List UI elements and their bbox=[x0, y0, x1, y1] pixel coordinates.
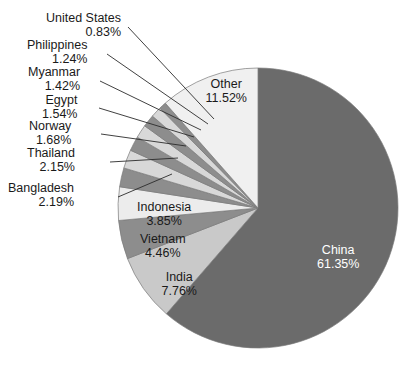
slice-label-indonesia: Indonesia3.85% bbox=[137, 200, 191, 228]
slice-label-thailand: Thailand2.15% bbox=[27, 146, 75, 174]
slice-label-myanmar: Myanmar1.42% bbox=[28, 65, 80, 93]
slice-label-china: China61.35% bbox=[317, 243, 359, 271]
slice-label-value-indonesia: 3.85% bbox=[137, 214, 191, 228]
slice-label-value-vietnam: 4.46% bbox=[140, 246, 186, 260]
slice-label-value-philippines: 1.24% bbox=[27, 52, 87, 66]
slice-label-name-thailand: Thailand bbox=[27, 146, 75, 160]
slice-label-india: India7.76% bbox=[162, 270, 197, 298]
slice-label-value-egypt: 1.54% bbox=[42, 107, 77, 121]
slice-label-value-myanmar: 1.42% bbox=[28, 79, 80, 93]
slice-label-name-indonesia: Indonesia bbox=[137, 200, 191, 214]
slice-label-value-india: 7.76% bbox=[162, 284, 197, 298]
pie-chart-figure: China61.35%India7.76%Vietnam4.46%Indones… bbox=[0, 0, 419, 367]
slice-label-name-india: India bbox=[162, 270, 197, 284]
slice-label-value-thailand: 2.15% bbox=[27, 160, 75, 174]
slice-label-value-norway: 1.68% bbox=[29, 133, 71, 147]
slice-label-name-egypt: Egypt bbox=[42, 93, 77, 107]
slice-label-name-bangladesh: Bangladesh bbox=[8, 181, 74, 195]
slice-label-bangladesh: Bangladesh2.19% bbox=[8, 181, 74, 209]
slice-label-value-united-states: 0.83% bbox=[46, 25, 121, 39]
slice-label-philippines: Philippines1.24% bbox=[27, 38, 87, 66]
slice-label-name-myanmar: Myanmar bbox=[28, 65, 80, 79]
slice-label-value-china: 61.35% bbox=[317, 257, 359, 271]
slice-label-name-norway: Norway bbox=[29, 119, 71, 133]
slice-label-norway: Norway1.68% bbox=[29, 119, 71, 147]
slice-label-name-other: Other bbox=[206, 77, 247, 91]
slice-label-name-china: China bbox=[317, 243, 359, 257]
slice-label-other: Other11.52% bbox=[206, 77, 247, 105]
slice-label-united-states: United States0.83% bbox=[46, 11, 121, 39]
slice-label-name-philippines: Philippines bbox=[27, 38, 87, 52]
slice-label-vietnam: Vietnam4.46% bbox=[140, 232, 186, 260]
slice-label-egypt: Egypt1.54% bbox=[42, 93, 77, 121]
slice-label-name-vietnam: Vietnam bbox=[140, 232, 186, 246]
slice-label-value-other: 11.52% bbox=[206, 91, 247, 105]
slice-label-value-bangladesh: 2.19% bbox=[8, 195, 74, 209]
slice-label-name-united-states: United States bbox=[46, 11, 121, 25]
